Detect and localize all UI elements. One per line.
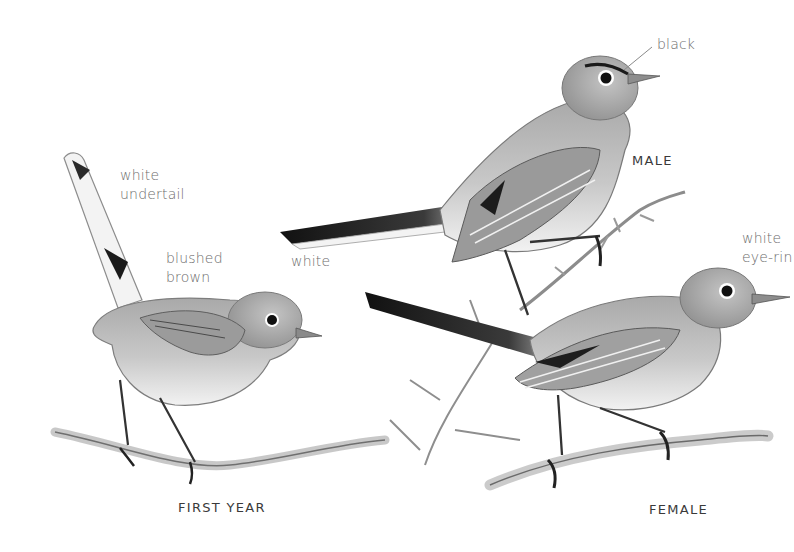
first-year-bird-drawing [55, 153, 385, 484]
caption-male: MALE [632, 153, 673, 168]
annotation-white-undertail: white undertail [120, 166, 185, 204]
female-bird-drawing [365, 268, 790, 488]
annotation-white-eye-ring: white eye-rin [742, 229, 792, 267]
annotation-blushed-brown: blushed brown [166, 249, 223, 287]
male-bird-drawing [280, 47, 685, 315]
annotation-black-brow: black [657, 35, 695, 54]
caption-female: FEMALE [649, 502, 708, 517]
caption-first-year: FIRST YEAR [178, 500, 266, 515]
annotation-white-tail-edge: white [291, 252, 330, 271]
illustration-plate [0, 0, 794, 552]
